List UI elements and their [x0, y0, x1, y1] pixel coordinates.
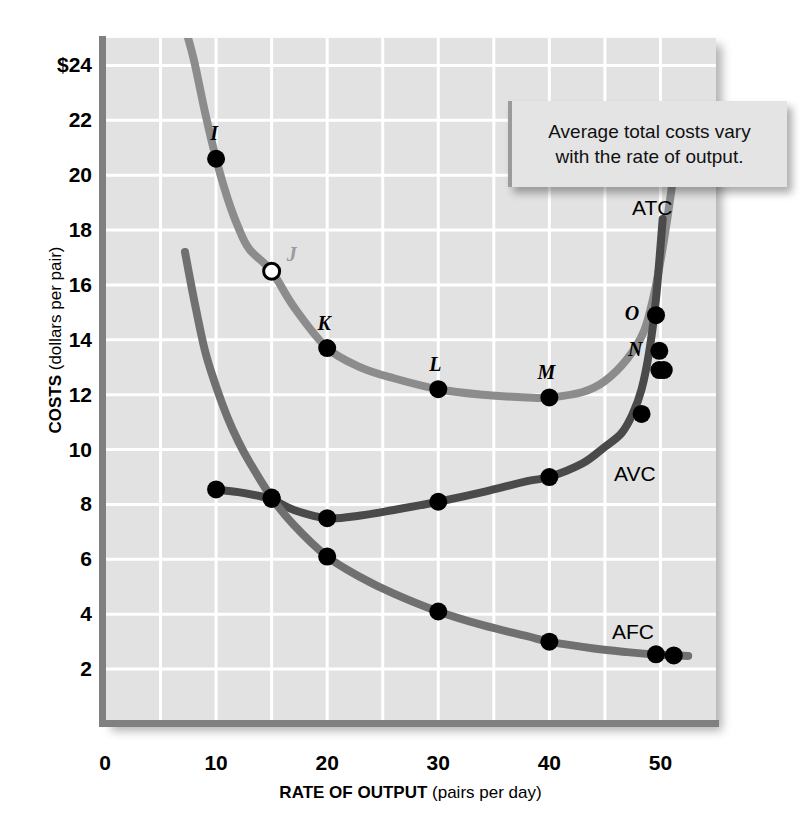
x-tick-label: 40	[538, 751, 561, 775]
callout-line-2: with the rate of output.	[555, 146, 743, 167]
y-tick-label: 2	[30, 657, 92, 681]
y-tick-label: 6	[30, 547, 92, 571]
y-tick-label: 20	[30, 163, 92, 187]
y-tick-label: 8	[30, 492, 92, 516]
point-label-k: K	[318, 312, 331, 335]
y-tick-label: 4	[30, 602, 92, 626]
y-axis-line	[99, 36, 106, 726]
x-axis-title-strong: RATE OF OUTPUT	[279, 783, 427, 802]
x-tick-label: 0	[99, 751, 111, 775]
point-label-m: M	[537, 361, 555, 384]
curve-label-avc: AVC	[614, 462, 656, 486]
point-label-i: I	[210, 121, 218, 144]
curve-label-afc: AFC	[612, 620, 654, 644]
x-tick-label: 10	[204, 751, 227, 775]
callout-line-1: Average total costs vary	[548, 121, 750, 142]
x-axis-title-rest: (pairs per day)	[427, 783, 541, 802]
callout-box: Average total costs vary with the rate o…	[508, 101, 787, 187]
x-axis-title: RATE OF OUTPUT (pairs per day)	[105, 783, 716, 803]
y-axis-title: COSTS (dollars per pair)	[46, 210, 66, 470]
point-label-j: J	[287, 243, 297, 266]
x-tick-label: 30	[427, 751, 450, 775]
y-axis-title-rest: (dollars per pair)	[46, 246, 65, 375]
x-axis-line	[99, 720, 719, 727]
point-label-n: N	[628, 337, 642, 360]
cost-curves-figure: $24222018161412108642 01020304050 COSTS …	[0, 0, 811, 827]
x-tick-label: 20	[315, 751, 338, 775]
x-tick-label: 50	[649, 751, 672, 775]
y-tick-label: $24	[30, 53, 92, 77]
callout-text: Average total costs vary with the rate o…	[540, 119, 758, 170]
y-tick-label: 22	[30, 108, 92, 132]
point-label-o: O	[625, 302, 639, 325]
curve-label-atc: ATC	[632, 196, 672, 220]
point-label-l: L	[429, 353, 441, 376]
y-axis-title-strong: COSTS	[46, 375, 65, 434]
